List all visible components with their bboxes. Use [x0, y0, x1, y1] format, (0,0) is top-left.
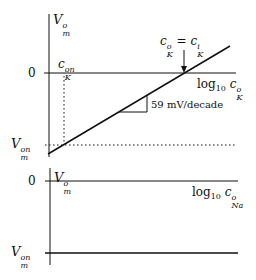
equality-annotation: coK = ciK — [160, 35, 203, 59]
bottom-zero-tick-label: 0 — [28, 175, 36, 187]
bottom-von-label: Vonm — [11, 245, 30, 270]
top-y-axis-label: Vom — [53, 13, 70, 38]
top-von-label: Vonm — [11, 137, 30, 162]
c-on-label: conK — [58, 58, 75, 82]
bottom-x-axis-label: log10 coNa — [192, 186, 243, 210]
slope-label: 59 mV/decade — [151, 100, 223, 110]
top-zero-tick-label: 0 — [28, 67, 36, 79]
bottom-y-axis-label: Vom — [54, 171, 71, 196]
diagram-canvas — [0, 0, 256, 280]
